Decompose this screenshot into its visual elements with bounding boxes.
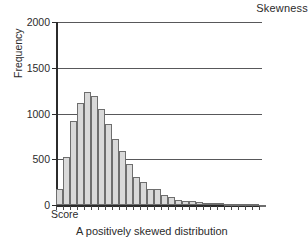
histogram-bar bbox=[84, 92, 91, 205]
histogram-bar bbox=[119, 151, 126, 205]
histogram-bar bbox=[217, 203, 224, 205]
x-axis-origin-label: Score bbox=[51, 208, 78, 220]
x-tick bbox=[217, 206, 218, 210]
x-tick bbox=[105, 206, 106, 210]
histogram-bar bbox=[175, 200, 182, 205]
x-tick bbox=[98, 206, 99, 210]
x-tick bbox=[161, 206, 162, 210]
histogram-bar bbox=[168, 197, 175, 205]
y-tick-label-0: 0 bbox=[22, 200, 50, 211]
x-tick bbox=[182, 206, 183, 210]
x-tick bbox=[119, 206, 120, 210]
histogram-bar bbox=[161, 195, 168, 205]
x-tick bbox=[175, 206, 176, 210]
x-tick bbox=[84, 206, 85, 210]
x-tick bbox=[140, 206, 141, 210]
histogram-bar bbox=[105, 124, 112, 205]
histogram-bar bbox=[231, 204, 238, 206]
x-tick bbox=[196, 206, 197, 210]
y-tick-label-2000: 2000 bbox=[22, 17, 50, 28]
histogram-bar bbox=[147, 189, 154, 205]
histogram-bar bbox=[133, 177, 140, 205]
histogram-bar bbox=[245, 204, 252, 206]
x-tick bbox=[126, 206, 127, 210]
y-axis-spine bbox=[56, 22, 58, 206]
x-tick bbox=[203, 206, 204, 210]
y-tick-label-1500: 1500 bbox=[22, 63, 50, 74]
histogram-bar bbox=[252, 204, 259, 206]
histogram-bar bbox=[56, 189, 63, 205]
y-tick-label-500: 500 bbox=[22, 154, 50, 165]
x-tick bbox=[231, 206, 232, 210]
x-tick bbox=[133, 206, 134, 210]
histogram-bar bbox=[63, 157, 70, 205]
gridline-2000 bbox=[56, 22, 262, 23]
histogram-bar bbox=[126, 164, 133, 205]
histogram-bar bbox=[91, 96, 98, 205]
histogram-bar bbox=[203, 203, 210, 205]
histogram-bar bbox=[210, 203, 217, 205]
x-tick bbox=[154, 206, 155, 210]
histogram-bar bbox=[196, 202, 203, 205]
histogram-bar bbox=[77, 103, 84, 205]
x-tick bbox=[210, 206, 211, 210]
histogram-bar bbox=[182, 201, 189, 205]
histogram-bar bbox=[224, 204, 231, 206]
x-tick bbox=[238, 206, 239, 210]
figure-caption: A positively skewed distribution bbox=[76, 225, 228, 237]
x-tick bbox=[245, 206, 246, 210]
x-tick bbox=[252, 206, 253, 210]
x-tick bbox=[147, 206, 148, 210]
y-tick-label-1000: 1000 bbox=[22, 109, 50, 120]
x-tick bbox=[91, 206, 92, 210]
skewness-histogram-figure: Skewness Frequency 0500100015002000 Scor… bbox=[0, 0, 308, 243]
histogram-bar bbox=[189, 201, 196, 205]
histogram-bar bbox=[140, 182, 147, 205]
x-tick bbox=[259, 206, 260, 210]
x-tick bbox=[168, 206, 169, 210]
x-tick bbox=[224, 206, 225, 210]
histogram-bar bbox=[259, 205, 266, 207]
x-tick bbox=[189, 206, 190, 210]
gridline-1500 bbox=[56, 68, 262, 69]
histogram-bar bbox=[70, 121, 77, 205]
x-tick bbox=[112, 206, 113, 210]
histogram-bar bbox=[112, 139, 119, 205]
figure-title: Skewness bbox=[256, 2, 308, 14]
histogram-bar bbox=[154, 189, 161, 205]
histogram-bar bbox=[238, 204, 245, 206]
histogram-bar bbox=[98, 109, 105, 205]
